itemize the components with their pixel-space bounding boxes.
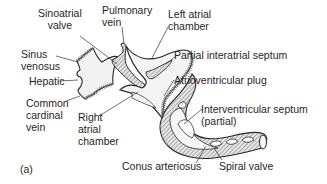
label-conus-arteriosus: Conus arteriosus — [122, 160, 201, 172]
label-left-atrial-chamber: Left atrial chamber — [168, 8, 211, 32]
label-atrioventricular-plug: Atrioventricular plug — [174, 74, 267, 86]
conus-opening — [260, 135, 267, 149]
label-common-cardinal-vein: Common cardinal vein — [26, 97, 69, 133]
label-interventricular-septum: Interventricular septum (partial) — [201, 103, 308, 127]
label-partial-interatrial-septum: Partial interatrial septum — [174, 49, 287, 61]
label-hepatic: Hepatic — [29, 75, 65, 87]
label-spiral-valve: Spiral valve — [219, 160, 273, 172]
label-sinus-venosus: Sinus venosus — [21, 48, 60, 72]
panel-label: (a) — [20, 163, 33, 175]
label-pulmonary-vein: Pulmonary vein — [102, 4, 152, 28]
label-right-atrial-chamber: Right atrial chamber — [78, 111, 119, 147]
label-sinoatrial-valve: Sinoatrial valve — [38, 7, 82, 31]
heart-anatomy-diagram: Sinoatrial valve Pulmonary vein Left atr… — [0, 0, 327, 184]
